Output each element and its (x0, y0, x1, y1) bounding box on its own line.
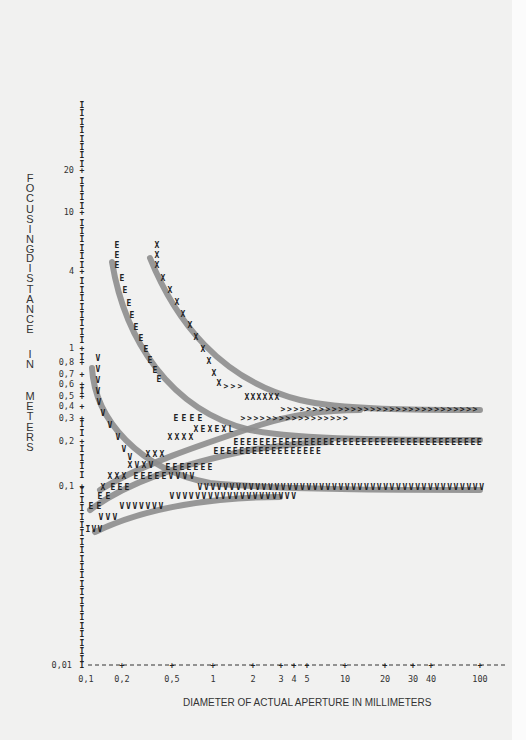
data-marker: E (187, 463, 192, 472)
data-marker: V (152, 502, 157, 511)
data-marker: E (355, 438, 360, 447)
data-marker: V (208, 492, 213, 501)
data-marker: E (400, 438, 405, 447)
x-tick-label: 5 (304, 674, 309, 684)
data-marker: E (118, 483, 123, 492)
data-marker: E (89, 502, 94, 511)
data-marker: > (306, 405, 311, 414)
data-marker: X (212, 369, 217, 378)
data-marker: X (194, 425, 199, 434)
data-marker: > (279, 414, 284, 423)
data-marker: E (381, 438, 386, 447)
y-tick-label: 0,5 (59, 391, 74, 401)
data-marker: V (390, 483, 395, 492)
data-marker: V (266, 492, 271, 501)
data-marker: E (413, 438, 418, 447)
data-marker: V (101, 409, 106, 418)
y-tick-label: 0,6 (59, 379, 74, 389)
data-marker: E (201, 463, 206, 472)
data-marker: V (351, 483, 356, 492)
x-tick-mark: + (292, 661, 297, 670)
data-marker: E (215, 425, 220, 434)
x-tick-mark: + (305, 661, 310, 670)
data-marker: > (345, 405, 350, 414)
data-marker: V (466, 483, 471, 492)
data-marker: E (253, 438, 258, 447)
data-marker: X (115, 472, 120, 481)
data-marker: > (447, 405, 452, 414)
data-marker: E (166, 463, 171, 472)
data-marker: X (181, 310, 186, 319)
y-tick-label: 0,2 (59, 436, 74, 446)
data-marker: E (246, 447, 251, 456)
data-marker: E (284, 447, 289, 456)
data-marker: > (441, 405, 446, 414)
data-marker: > (473, 405, 478, 414)
data-marker: > (434, 405, 439, 414)
data-marker: X (155, 251, 160, 260)
data-marker: E (252, 447, 257, 456)
data-marker: V (217, 483, 222, 492)
data-marker: E (451, 438, 456, 447)
data-marker: E (240, 438, 245, 447)
data-marker: V (434, 483, 439, 492)
data-marker: E (387, 438, 392, 447)
data-marker: V (122, 445, 127, 454)
data-marker: E (445, 438, 450, 447)
data-marker: E (298, 438, 303, 447)
data-marker: > (273, 414, 278, 423)
y-axis: IIIIIIIIIIIIIIIIIIIIIIIIIIIIIIIIIIIIIIII… (52, 101, 85, 670)
data-marker: E (394, 438, 399, 447)
data-marker: E (291, 438, 296, 447)
data-marker: E (111, 483, 116, 492)
data-marker: X (101, 483, 106, 492)
data-marker: E (303, 447, 308, 456)
data-marker: V (294, 483, 299, 492)
data-marker: X (208, 425, 213, 434)
y-axis-title: FOCUSINGDISTANCEINMETERS (25, 172, 34, 453)
data-marker: > (383, 405, 388, 414)
x-tick-label: 0,1 (78, 674, 93, 684)
data-marker: E (134, 323, 139, 332)
data-marker: V (422, 483, 427, 492)
data-marker: > (421, 405, 426, 414)
data-marker: X (201, 345, 206, 354)
data-marker: V (92, 525, 97, 534)
data-marker: E (426, 438, 431, 447)
data-marker: V (253, 492, 258, 501)
data-marker: E (330, 438, 335, 447)
y-tick-label: 0,7 (59, 369, 74, 379)
data-marker: V (135, 461, 140, 470)
data-marker: V (210, 483, 215, 492)
data-marker: E (125, 483, 130, 492)
data-marker: V (149, 461, 154, 470)
data-marker: V (190, 472, 195, 481)
data-marker: X (245, 393, 250, 402)
y-tick-mark: + (80, 402, 85, 411)
data-marker: V (332, 483, 337, 492)
data-marker: X (207, 357, 212, 366)
y-tick-mark: I (80, 661, 85, 670)
y-tick-label: 0,8 (59, 357, 74, 367)
y-tick-label: 1 (69, 343, 74, 353)
data-marker: E (201, 425, 206, 434)
data-marker: E (141, 472, 146, 481)
x-tick-label: 4 (291, 674, 296, 684)
data-marker: V (176, 492, 181, 501)
data-marker: X (168, 286, 173, 295)
data-marker: X (257, 393, 262, 402)
data-marker: V (319, 483, 324, 492)
data-marker: > (409, 405, 414, 414)
x-axis: 0,1+0,2+0,5+1+2+3+4+5+10+20+30+40+100 (78, 661, 508, 684)
data-marker: E (220, 447, 225, 456)
data-marker: > (285, 414, 290, 423)
y-tick-mark: + (80, 208, 85, 217)
data-marker: V (255, 483, 260, 492)
data-marker: E (310, 447, 315, 456)
data-marker: E (316, 447, 321, 456)
data-marker: X (222, 425, 227, 434)
data-marker: V (377, 483, 382, 492)
curve-band (150, 258, 480, 410)
data-marker: V (96, 376, 101, 385)
data-marker: E (234, 438, 239, 447)
